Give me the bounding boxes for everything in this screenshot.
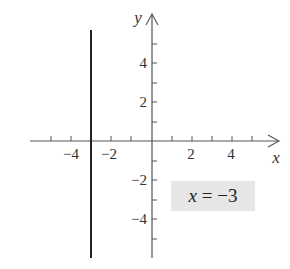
- equation-value: = −3: [197, 185, 237, 207]
- x-tick-label-neg2: −2: [101, 146, 117, 162]
- y-tick-label-neg4: −4: [131, 211, 147, 227]
- x-tick-label-4: 4: [227, 146, 235, 162]
- equation-variable: x: [189, 185, 197, 207]
- y-axis: [146, 14, 158, 258]
- y-tick-label-neg2: −2: [131, 172, 147, 188]
- y-axis-label: y: [132, 8, 142, 27]
- y-tick-label-2: 2: [140, 94, 148, 110]
- coordinate-plane: −4 −2 2 4 4 2 −2 −4 x y: [0, 0, 290, 269]
- y-tick-label-4: 4: [140, 55, 148, 71]
- x-axis-label: x: [271, 148, 280, 167]
- equation-label: x = −3: [171, 181, 255, 211]
- x-tick-label-2: 2: [187, 146, 195, 162]
- x-tick-label-neg4: −4: [63, 146, 79, 162]
